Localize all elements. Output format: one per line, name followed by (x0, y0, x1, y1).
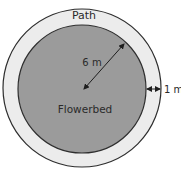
flowerbed-diagram: Path 6 m Flowerbed 1 m (0, 0, 181, 178)
radius-label: 6 m (82, 57, 101, 68)
flowerbed-circle (18, 25, 146, 153)
path-label: Path (72, 9, 96, 22)
path-width-label: 1 m (164, 84, 181, 95)
flowerbed-label: Flowerbed (58, 103, 113, 115)
